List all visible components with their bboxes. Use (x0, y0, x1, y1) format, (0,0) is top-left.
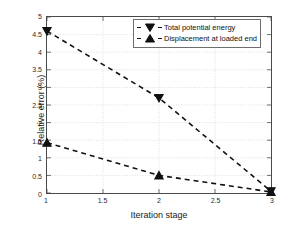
legend-item-total-potential-energy: Total potential energy (137, 22, 257, 33)
triangle-down-icon (144, 22, 156, 33)
legend-item-displacement-at-loaded-end: Displacement at loaded end (137, 33, 257, 44)
triangle-up-icon (155, 171, 163, 178)
legend-dash-right (158, 27, 162, 28)
x-tick-label: 2 (157, 197, 161, 204)
triangle-down-icon (155, 94, 163, 101)
legend-label-total-potential-energy: Total potential energy (163, 22, 235, 33)
legend-label-displacement-at-loaded-end: Displacement at loaded end (163, 33, 257, 44)
x-axis-title: Iteration stage (46, 210, 272, 220)
x-tick-label: 1.5 (98, 197, 108, 204)
legend-dash-left (137, 38, 141, 39)
y-tick-label: 5 (12, 13, 42, 20)
x-tick-label: 2.5 (211, 197, 221, 204)
legend-swatch-total-potential-energy (137, 22, 163, 33)
y-axis-title: Relative error (%) (36, 21, 46, 199)
legend-dash-left (137, 27, 141, 28)
legend-dash-right (158, 38, 162, 39)
triangle-up-icon (144, 33, 156, 44)
legend-swatch-displacement-at-loaded-end (137, 33, 163, 44)
x-tick-label: 3 (270, 197, 274, 204)
chart-figure: 00.511.522.533.544.55 11.522.53 Iteratio… (0, 0, 288, 234)
chart-legend: Total potential energy Displacement at l… (133, 19, 261, 48)
